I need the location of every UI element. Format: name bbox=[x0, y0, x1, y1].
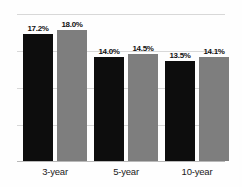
bar-group-10-year: 13.5% 14.1% bbox=[165, 14, 229, 162]
category-label-10-year: 10-year bbox=[165, 166, 229, 177]
bar-group-5-year: 14.0% 14.5% bbox=[94, 14, 158, 162]
bar-3-year-series-1[interactable] bbox=[23, 34, 53, 161]
bar-3-year-series-2[interactable] bbox=[57, 30, 87, 161]
category-axis: 3-year 5-year 10-year bbox=[17, 166, 225, 182]
bar-group-3-year: 17.2% 18.0% bbox=[23, 14, 87, 162]
bar-label-5-year-series-1: 14.0% bbox=[91, 47, 127, 56]
bars-layer: 17.2% 18.0% 14.0% 14.5% 13.5% 14.1% bbox=[17, 14, 225, 162]
bar-5-year-series-2[interactable] bbox=[128, 54, 158, 161]
bar-label-3-year-series-2: 18.0% bbox=[54, 20, 90, 29]
bar-label-10-year-series-1: 13.5% bbox=[162, 51, 198, 60]
category-label-5-year: 5-year bbox=[94, 166, 158, 177]
bar-10-year-series-1[interactable] bbox=[165, 61, 195, 161]
plot-area: 17.2% 18.0% 14.0% 14.5% 13.5% 14.1% bbox=[17, 14, 225, 162]
bar-label-5-year-series-2: 14.5% bbox=[125, 44, 161, 53]
bar-label-10-year-series-2: 14.1% bbox=[196, 47, 232, 56]
category-label-3-year: 3-year bbox=[23, 166, 87, 177]
bar-10-year-series-2[interactable] bbox=[199, 57, 229, 161]
bar-5-year-series-1[interactable] bbox=[94, 57, 124, 161]
bar-chart: 17.2% 18.0% 14.0% 14.5% 13.5% 14.1% 3-ye… bbox=[0, 0, 242, 187]
bar-label-3-year-series-1: 17.2% bbox=[20, 24, 56, 33]
